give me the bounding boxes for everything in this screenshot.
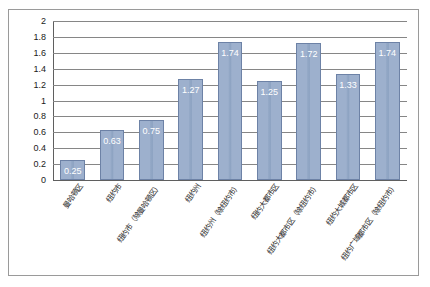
bar-slot: 1.33 bbox=[336, 21, 360, 180]
y-axis-tick-label: 1 bbox=[41, 96, 46, 105]
y-axis-tick-label: 1.6 bbox=[33, 48, 46, 57]
bar-slot: 0.63 bbox=[100, 21, 124, 180]
bar-slot: 1.72 bbox=[296, 21, 320, 180]
y-axis-tick-label: 0.6 bbox=[33, 128, 46, 137]
x-axis-category-label: 纽约大都市区 bbox=[249, 182, 280, 222]
x-axis-category-label: 纽约州（除纽约市） bbox=[198, 182, 242, 239]
y-axis-tick-label: 1.8 bbox=[33, 32, 46, 41]
y-axis-tick-label: 0 bbox=[41, 176, 46, 185]
bar-value-label: 1.33 bbox=[336, 81, 360, 90]
x-axis-category-label: 纽约大城都市区 bbox=[324, 182, 359, 227]
x-axis-category-label: 纽约市（除曼哈顿区） bbox=[115, 182, 163, 245]
y-axis-tick-label: 1.2 bbox=[33, 80, 46, 89]
y-axis-tick-label: 0.8 bbox=[33, 112, 46, 121]
y-axis-tick-labels: 21.81.61.41.210.80.60.40.20 bbox=[9, 21, 50, 180]
y-axis-tick-label: 1.4 bbox=[33, 64, 46, 73]
gridline bbox=[53, 180, 407, 181]
x-axis-category-label: 曼哈顿区 bbox=[61, 182, 84, 210]
bar-slot: 1.25 bbox=[257, 21, 281, 180]
bar-value-label: 0.75 bbox=[139, 127, 163, 136]
bar-value-label: 0.25 bbox=[60, 167, 84, 176]
x-axis-category-labels: 曼哈顿区纽约市纽约市（除曼哈顿区）纽约州纽约州（除纽约市）纽约大都市区纽约大都市… bbox=[53, 182, 407, 274]
plot-area: 0.250.630.751.271.741.251.721.331.74 bbox=[53, 21, 407, 180]
bar-slot: 1.27 bbox=[178, 21, 202, 180]
bar-value-label: 1.74 bbox=[375, 49, 399, 58]
x-axis-category-label: 纽约市 bbox=[104, 182, 123, 204]
y-axis-tick-label: 0.4 bbox=[33, 144, 46, 153]
bar-value-label: 0.63 bbox=[100, 137, 124, 146]
bar-value-label: 1.72 bbox=[296, 50, 320, 59]
y-axis-tick-label: 2 bbox=[41, 17, 46, 26]
bar[interactable] bbox=[218, 42, 242, 180]
bar-value-label: 1.74 bbox=[218, 49, 242, 58]
bar-slot: 0.75 bbox=[139, 21, 163, 180]
bar-value-label: 1.25 bbox=[257, 88, 281, 97]
bar-slot: 1.74 bbox=[218, 21, 242, 180]
chart-frame: 21.81.61.41.210.80.60.40.20 0.250.630.75… bbox=[8, 9, 419, 276]
bar[interactable] bbox=[296, 43, 320, 180]
bar-value-label: 1.27 bbox=[178, 86, 202, 95]
y-axis-tick-label: 0.2 bbox=[33, 160, 46, 169]
x-axis-category-label: 纽约州 bbox=[183, 182, 202, 204]
bar-slot: 0.25 bbox=[60, 21, 84, 180]
bar[interactable] bbox=[375, 42, 399, 180]
bar-series: 0.250.630.751.271.741.251.721.331.74 bbox=[53, 21, 407, 180]
bar-slot: 1.74 bbox=[375, 21, 399, 180]
